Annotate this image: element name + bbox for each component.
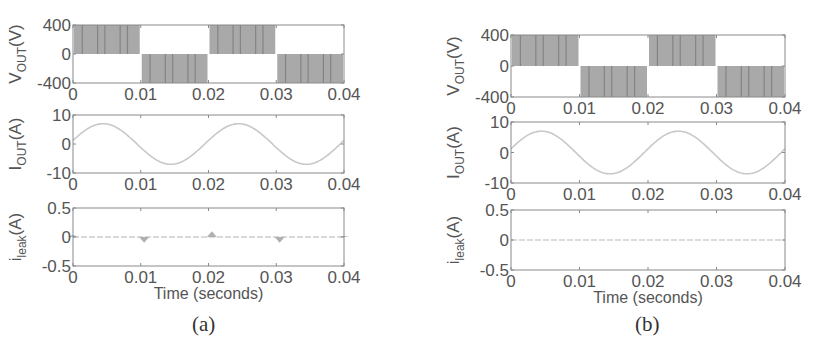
vout-axis-label: VOUT(V) — [6, 24, 29, 83]
y-tick-label: -400 — [475, 88, 509, 107]
subplot-1: 00.010.020.030.04100-10 — [484, 113, 801, 204]
iout-trace — [73, 124, 344, 165]
iout-trace — [511, 131, 785, 174]
x-tick-label: 0.04 — [768, 185, 801, 204]
iout-axis-label: IOUT(A) — [444, 126, 467, 179]
y-tick-label: 0 — [62, 228, 71, 247]
ileak-spike — [275, 237, 285, 243]
figure-panel-a: 00.010.020.030.044000-400VOUT(V)00.010.0… — [0, 0, 410, 342]
ileak-axis-label: ileak(A) — [6, 213, 29, 261]
x-axis-label: Time (seconds) — [593, 289, 703, 306]
x-tick-label: 0.03 — [260, 268, 293, 287]
subplot-0: 00.010.020.030.044000-400 — [37, 16, 361, 104]
x-tick-label: 0.01 — [124, 175, 157, 194]
pwm-block — [581, 66, 648, 97]
x-tick-label: 0.04 — [327, 268, 360, 287]
y-tick-label: -0.5 — [480, 261, 509, 280]
panel-b-caption: (b) — [635, 312, 660, 337]
pwm-block — [74, 25, 140, 54]
subplot-2: 00.010.020.030.040.50-0.5 — [42, 199, 361, 287]
y-tick-label: 10 — [52, 106, 71, 125]
y-tick-label: 0 — [500, 57, 509, 76]
pwm-block — [277, 54, 343, 83]
y-tick-label: 0.5 — [47, 199, 71, 218]
panel-b-plots: 00.010.020.030.044000-400VOUT(V)00.010.0… — [410, 0, 816, 342]
x-tick-label: 0.03 — [700, 99, 733, 118]
y-tick-label: 400 — [43, 16, 71, 35]
vout-axis-label: VOUT(V) — [444, 36, 467, 95]
y-tick-label: 10 — [490, 113, 509, 132]
y-tick-label: 400 — [481, 26, 509, 45]
ileak-spike — [207, 231, 217, 237]
iout-axis-label: IOUT(A) — [6, 118, 29, 171]
x-tick-label: 0.03 — [700, 272, 733, 291]
subplot-1: 00.010.020.030.04100-10 — [46, 106, 360, 194]
pwm-block — [649, 35, 716, 66]
x-tick-label: 0.01 — [124, 85, 157, 104]
x-tick-label: 0.01 — [563, 99, 596, 118]
x-tick-label: 0.01 — [563, 185, 596, 204]
pwm-block — [210, 25, 276, 54]
subplot-0: 00.010.020.030.044000-400 — [475, 26, 802, 118]
y-tick-label: -0.5 — [42, 257, 71, 276]
x-tick-label: 0.02 — [631, 99, 664, 118]
panel-a-caption: (a) — [192, 312, 215, 337]
x-axis-label: Time (seconds) — [154, 285, 264, 302]
y-tick-label: -400 — [37, 74, 71, 93]
y-tick-label: 0 — [62, 135, 71, 154]
figure-panel-b: 00.010.020.030.044000-400VOUT(V)00.010.0… — [410, 0, 816, 342]
x-tick-label: 0.03 — [700, 185, 733, 204]
x-tick-label: 0.03 — [260, 85, 293, 104]
x-tick-label: 0.04 — [327, 175, 360, 194]
y-tick-label: 0 — [62, 45, 71, 64]
x-tick-label: 0.04 — [327, 85, 360, 104]
pwm-block — [718, 66, 785, 97]
pwm-block — [142, 54, 208, 83]
x-tick-label: 0.02 — [192, 85, 225, 104]
y-tick-label: 0 — [500, 231, 509, 250]
x-tick-label: 0.04 — [768, 272, 801, 291]
panel-a-plots: 00.010.020.030.044000-400VOUT(V)00.010.0… — [0, 0, 410, 342]
x-tick-label: 0.03 — [260, 175, 293, 194]
y-tick-label: 0.5 — [485, 201, 509, 220]
y-tick-label: -10 — [46, 164, 71, 183]
x-tick-label: 0.01 — [124, 268, 157, 287]
pwm-block — [512, 35, 579, 66]
x-tick-label: 0.01 — [563, 272, 596, 291]
y-tick-label: 0 — [500, 144, 509, 163]
subplot-2: 00.010.020.030.040.50-0.5 — [480, 201, 802, 291]
ileak-axis-label: ileak(A) — [444, 216, 467, 264]
x-tick-label: 0.04 — [768, 99, 801, 118]
x-tick-label: 0.02 — [631, 185, 664, 204]
ileak-spike — [139, 237, 149, 243]
x-tick-label: 0.02 — [192, 175, 225, 194]
y-tick-label: -10 — [484, 174, 509, 193]
